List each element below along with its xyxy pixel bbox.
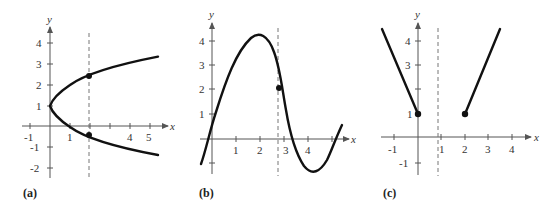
- x-axis-label: x: [533, 131, 539, 143]
- svg-text:2: 2: [462, 143, 468, 155]
- caption: (a): [23, 186, 37, 200]
- y-axis-label: y: [208, 8, 214, 20]
- graph-c: x y -1 1 2 3 4 4 3 1 -1 (c): [381, 8, 539, 200]
- svg-text:3: 3: [199, 59, 205, 71]
- svg-text:1: 1: [439, 143, 445, 155]
- svg-text:1: 1: [233, 144, 239, 156]
- wave-curve: [201, 35, 342, 172]
- svg-text:5: 5: [146, 131, 152, 143]
- right-segment: [465, 29, 500, 114]
- endpoint: [462, 111, 468, 117]
- svg-text:4: 4: [199, 35, 205, 47]
- svg-text:4: 4: [405, 35, 411, 47]
- svg-text:1: 1: [199, 108, 205, 120]
- intersection-point: [86, 132, 92, 138]
- y-axis-label: y: [46, 13, 52, 25]
- intersection-point: [276, 85, 282, 91]
- left-segment: [382, 29, 418, 114]
- svg-text:3: 3: [283, 144, 289, 156]
- svg-text:4: 4: [509, 143, 515, 155]
- caption: (c): [383, 186, 396, 200]
- caption: (b): [199, 186, 214, 200]
- figure: x y -1 1 4 5 4 3 2 1 -1 -2 (a) x y 1: [0, 0, 555, 204]
- endpoint: [415, 111, 421, 117]
- x-axis-label: x: [169, 120, 175, 132]
- graph-a: x y -1 1 4 5 4 3 2 1 -1 -2 (a): [22, 13, 175, 200]
- svg-text:-2: -2: [30, 162, 39, 174]
- svg-text:3: 3: [485, 143, 491, 155]
- svg-text:3: 3: [36, 58, 42, 70]
- svg-text:-1: -1: [399, 157, 408, 169]
- svg-text:4: 4: [127, 131, 133, 143]
- svg-text:2: 2: [257, 144, 263, 156]
- svg-text:1: 1: [67, 131, 73, 143]
- svg-text:2: 2: [199, 83, 205, 95]
- svg-text:-1: -1: [388, 143, 397, 155]
- svg-text:3: 3: [405, 59, 411, 71]
- intersection-point: [86, 73, 92, 79]
- svg-text:-1: -1: [30, 141, 39, 153]
- svg-text:4: 4: [305, 144, 311, 156]
- x-axis-label: x: [350, 133, 356, 145]
- graph-b: x y 1 2 3 4 4 3 2 1 (b): [199, 8, 356, 200]
- svg-text:2: 2: [36, 79, 42, 91]
- y-axis-label: y: [414, 8, 420, 20]
- svg-text:1: 1: [36, 100, 42, 112]
- svg-text:4: 4: [36, 37, 42, 49]
- svg-text:1: 1: [407, 108, 413, 120]
